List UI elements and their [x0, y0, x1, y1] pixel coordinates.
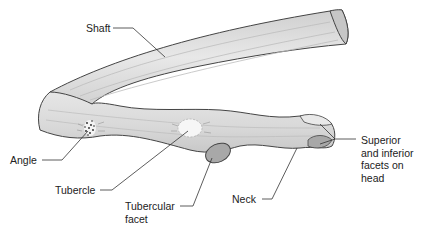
- label-shaft: Shaft: [86, 22, 111, 35]
- tubercular-facet-leader: [180, 158, 212, 206]
- label-neck: Neck: [232, 193, 256, 206]
- label-head-facets-line2: and inferior: [361, 147, 414, 160]
- label-tubercle: Tubercle: [55, 184, 95, 197]
- label-head-facets: Superior and inferior facets on head: [361, 134, 414, 184]
- label-head-facets-line4: head: [361, 172, 414, 185]
- label-tubercular-facet-line2: facet: [125, 213, 175, 226]
- label-head-facets-line1: Superior: [361, 134, 414, 147]
- label-angle: Angle: [10, 154, 37, 167]
- rib-diagram: [0, 0, 421, 236]
- label-head-facets-line3: facets on: [361, 159, 414, 172]
- neck-leader: [262, 148, 297, 199]
- label-tubercular-facet-line1: Tubercular: [125, 200, 175, 213]
- label-tubercular-facet: Tubercular facet: [125, 200, 175, 225]
